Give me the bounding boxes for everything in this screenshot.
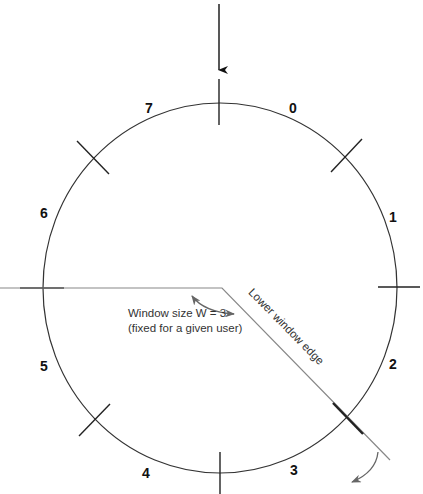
sector-label-1: 1 [389, 210, 397, 224]
tick-ne [331, 139, 362, 172]
window-size-line2: (fixed for a given user) [128, 321, 242, 336]
tick-nw [77, 141, 109, 174]
sector-label-5: 5 [40, 359, 48, 373]
sector-label-3: 3 [290, 463, 298, 477]
sector-label-7: 7 [145, 101, 153, 115]
window-size-note: Window size W = 3 (fixed for a given use… [128, 306, 242, 336]
diagram-canvas [0, 0, 423, 494]
sector-label-4: 4 [142, 466, 150, 480]
sector-label-2: 2 [389, 357, 397, 371]
rotation-arrow-icon [352, 452, 378, 482]
sector-label-0: 0 [289, 101, 297, 115]
sector-label-6: 6 [40, 206, 48, 220]
tick-sw [79, 404, 110, 436]
window-size-line1: Window size W = 3 [128, 306, 242, 321]
tick-se [333, 403, 363, 434]
